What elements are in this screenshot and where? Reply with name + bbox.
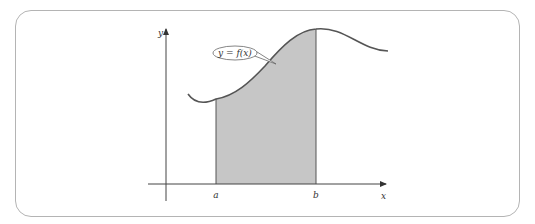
curve-label: y = f(x) xyxy=(217,48,252,58)
x-axis-label: x xyxy=(381,191,386,201)
integral-diagram: y = f(x) y x a b xyxy=(0,0,535,224)
y-axis-label: y xyxy=(157,28,164,38)
lower-bound-label: a xyxy=(213,190,218,200)
upper-bound-label: b xyxy=(313,190,319,200)
